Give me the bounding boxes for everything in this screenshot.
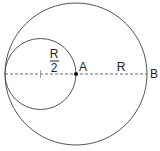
- label-small-radius-denominator: 2: [51, 61, 58, 75]
- point-a-dot: [74, 72, 78, 76]
- label-large-radius: R: [117, 60, 126, 74]
- diagram-canvas: R 2 A R B: [0, 0, 160, 151]
- label-point-b: B: [150, 67, 158, 81]
- label-point-a: A: [79, 60, 87, 74]
- label-small-radius-numerator: R: [50, 47, 59, 61]
